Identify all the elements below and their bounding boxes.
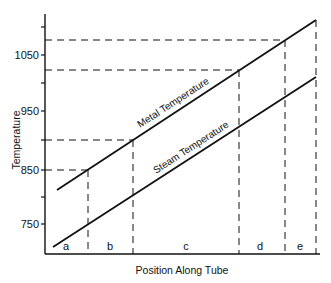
metal-temperature-label: Metal Temperature [135,75,211,130]
segment-label-d: d [257,240,263,252]
y-tick-label-750: 750 [21,218,39,230]
y-tick-label-950: 950 [21,105,39,117]
segment-label-c: c [183,240,189,252]
segment-label-b: b [107,240,113,252]
y-tick-label-850: 850 [21,164,39,176]
y-tick-label-1050: 1050 [15,49,39,61]
temperature-chart: 1050 950 850 750 Temperature Position Al… [0,0,331,283]
axes [45,14,320,254]
segment-label-e: e [297,240,303,252]
steam-temperature-label: Steam Temperature [151,118,231,175]
y-axis-title: Temperature [10,110,22,169]
metal-temperature-line [57,20,316,190]
segment-label-a: a [63,240,70,252]
x-axis-title: Position Along Tube [136,264,229,276]
steam-temperature-line [53,77,316,247]
